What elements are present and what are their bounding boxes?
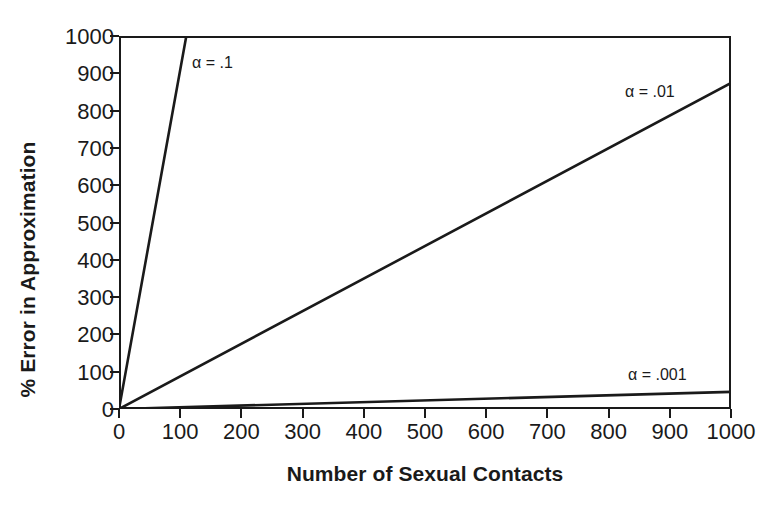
y-axis-title: % Error in Approximation <box>0 0 56 511</box>
y-tick-label: 700 <box>77 138 114 160</box>
y-axis-title-text: % Error in Approximation <box>16 114 40 398</box>
series-annotation-label: α = .1 <box>192 55 233 71</box>
y-tick-label: 300 <box>77 287 114 309</box>
x-tick-label: 900 <box>651 421 688 443</box>
x-tick-mark <box>546 409 548 418</box>
x-tick-label: 400 <box>345 421 382 443</box>
x-tick-label: 300 <box>284 421 321 443</box>
x-tick-mark <box>424 409 426 418</box>
y-tick-label: 900 <box>77 63 114 85</box>
series-annotation-label: α = .001 <box>628 367 687 383</box>
series-line <box>119 36 186 409</box>
x-tick-mark <box>730 409 732 418</box>
x-tick-label: 1000 <box>707 421 756 443</box>
x-tick-mark <box>118 409 120 418</box>
y-tick-label: 100 <box>77 362 114 384</box>
x-tick-mark <box>485 409 487 418</box>
x-tick-label: 600 <box>468 421 505 443</box>
x-tick-mark <box>608 409 610 418</box>
x-tick-mark <box>669 409 671 418</box>
y-tick-label: 500 <box>77 213 114 235</box>
x-tick-mark <box>363 409 365 418</box>
plot-area: 01002003004005006007008009001000 0100200… <box>119 36 731 409</box>
x-tick-mark <box>240 409 242 418</box>
y-tick-label: 600 <box>77 175 114 197</box>
y-tick-label: 200 <box>77 324 114 346</box>
series-line <box>119 392 731 409</box>
x-axis-title: Number of Sexual Contacts <box>119 462 731 486</box>
y-tick-label: 0 <box>102 399 114 421</box>
series-annotation-label: α = .01 <box>625 84 675 100</box>
x-tick-label: 700 <box>529 421 566 443</box>
chart-figure: % Error in Approximation 010020030040050… <box>0 0 774 511</box>
x-tick-label: 500 <box>407 421 444 443</box>
y-tick-label: 800 <box>77 101 114 123</box>
y-tick-label: 1000 <box>65 26 114 48</box>
x-tick-label: 0 <box>113 421 125 443</box>
x-tick-mark <box>179 409 181 418</box>
y-tick-label: 400 <box>77 250 114 272</box>
x-tick-mark <box>302 409 304 418</box>
x-tick-label: 200 <box>223 421 260 443</box>
x-tick-label: 800 <box>590 421 627 443</box>
series-line <box>119 83 731 409</box>
x-tick-label: 100 <box>162 421 199 443</box>
x-axis-title-text: Number of Sexual Contacts <box>287 462 564 485</box>
